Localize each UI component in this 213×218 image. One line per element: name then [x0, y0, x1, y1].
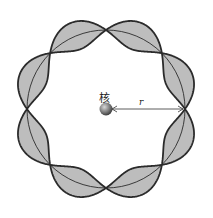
nucleus-label: 核: [99, 89, 110, 105]
radius-label: r: [139, 97, 143, 107]
standing-wave-diagram: [0, 0, 213, 218]
